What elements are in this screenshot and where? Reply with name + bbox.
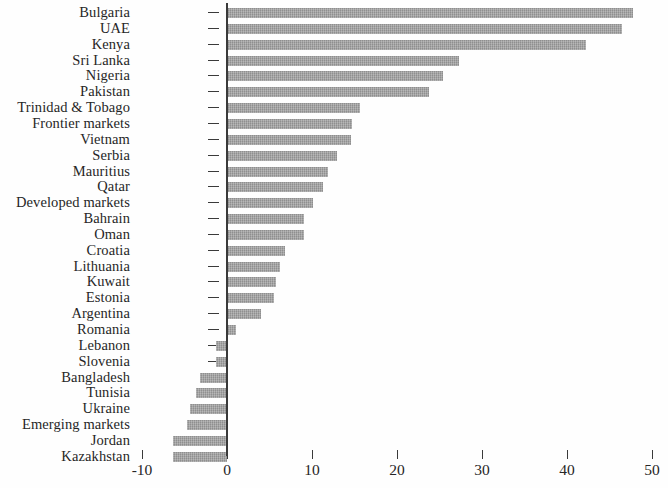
category-label: Developed markets [16,195,130,211]
category-label: Lebanon [79,338,130,354]
category-label: Croatia [87,243,130,259]
category-tick-mark [208,12,219,13]
bar-row: Pakistan [0,84,668,100]
bar [227,325,236,335]
bar-row: Sri Lanka [0,53,668,69]
bar [227,151,337,161]
category-tick-mark [208,75,219,76]
category-label: Estonia [86,290,130,306]
category-label: UAE [100,21,130,37]
category-tick-mark [208,202,219,203]
bar [227,262,280,272]
bar-row: Jordan [0,433,668,449]
category-tick-mark [208,329,219,330]
bar [227,214,304,224]
x-axis-tick [397,450,398,459]
bar-row: Emerging markets [0,417,668,433]
category-label: Jordan [91,433,130,449]
category-label: Trinidad & Tobago [17,100,130,116]
category-tick-mark [208,313,219,314]
bar-row: Estonia [0,290,668,306]
bar-row: Croatia [0,243,668,259]
bar [227,230,304,240]
bar-row: Oman [0,227,668,243]
bar-row: Nigeria [0,68,668,84]
category-label: Emerging markets [22,417,130,433]
category-label: Bahrain [83,211,130,227]
bar [227,8,633,18]
category-label: Mauritius [73,164,130,180]
bar-row: Qatar [0,179,668,195]
category-label: Qatar [97,179,130,195]
bar-row: Argentina [0,306,668,322]
category-label: Tunisia [86,385,130,401]
category-label: Bangladesh [61,370,130,386]
bar-row: Developed markets [0,195,668,211]
bar-row: Romania [0,322,668,338]
category-tick-mark [208,91,219,92]
bar [227,198,313,208]
category-label: Romania [77,322,130,338]
x-axis-tick-label: 20 [369,461,425,479]
category-tick-mark [208,44,219,45]
category-tick-mark [208,155,219,156]
category-label: Argentina [71,306,130,322]
bar [227,119,352,129]
category-label: Frontier markets [32,116,130,132]
bar-row: Kenya [0,37,668,53]
category-tick-mark [208,297,219,298]
x-axis-tick-label: -10 [114,461,170,479]
x-axis-tick [312,450,313,459]
bar-row: Frontier markets [0,116,668,132]
bar-row: Trinidad & Tobago [0,100,668,116]
bar [196,388,227,398]
bar [227,246,285,256]
bar [227,24,622,34]
zero-axis-line [226,3,228,456]
category-label: Oman [94,227,130,243]
bar [227,56,459,66]
bar [227,135,351,145]
category-label: Serbia [92,148,130,164]
bar-row: UAE [0,21,668,37]
x-axis-tick-label: 0 [199,461,255,479]
bar-row: Tunisia [0,385,668,401]
category-tick-mark [208,234,219,235]
bar [200,373,227,383]
category-label: Vietnam [80,132,130,148]
bar [227,309,261,319]
category-label: Slovenia [78,354,130,370]
x-axis-tick [567,450,568,459]
bar-row: Bahrain [0,211,668,227]
category-tick-mark [208,171,219,172]
bar [227,40,586,50]
category-tick-mark [208,60,219,61]
x-axis-tick-label: 30 [454,461,510,479]
category-tick-mark [208,281,219,282]
bar [190,404,227,414]
plot-area: BulgariaUAEKenyaSri LankaNigeriaPakistan… [0,0,668,488]
bar-row: Serbia [0,148,668,164]
bar-row: Lebanon [0,338,668,354]
x-axis-tick [227,450,228,459]
bar-row: Lithuania [0,259,668,275]
category-label: Bulgaria [79,5,130,21]
bar-row: Bangladesh [0,370,668,386]
bar-chart: BulgariaUAEKenyaSri LankaNigeriaPakistan… [0,0,668,488]
category-label: Ukraine [83,401,130,417]
category-tick-mark [208,123,219,124]
bar-row: Vietnam [0,132,668,148]
bar [227,71,443,81]
bar-row: Bulgaria [0,5,668,21]
category-label: Sri Lanka [72,53,130,69]
category-tick-mark [208,186,219,187]
category-tick-mark [208,28,219,29]
category-tick-mark [208,250,219,251]
x-axis-tick [652,450,653,459]
bar [227,277,276,287]
bar-row: Kuwait [0,274,668,290]
category-tick-mark [208,266,219,267]
bar [227,293,274,303]
x-axis-tick-label: 40 [539,461,595,479]
bar [227,87,429,97]
